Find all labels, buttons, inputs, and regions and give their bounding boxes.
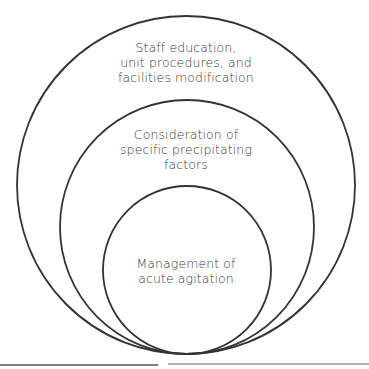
middle-label-line-3: factors — [86, 157, 286, 172]
outer-label-line-1: Staff education, — [86, 40, 286, 55]
outer-circle-label: Staff education, unit procedures, and fa… — [86, 40, 286, 85]
middle-label-line-2: specific precipitating — [86, 142, 286, 157]
inner-label-line-2: acute agitation — [106, 271, 266, 286]
outer-label-line-2: unit procedures, and — [86, 55, 286, 70]
middle-circle-label: Consideration of specific precipitating … — [86, 127, 286, 172]
middle-label-line-1: Consideration of — [86, 127, 286, 142]
outer-label-line-3: facilities modification — [86, 70, 286, 85]
inner-circle-label: Management of acute agitation — [106, 256, 266, 286]
inner-label-line-1: Management of — [106, 256, 266, 271]
